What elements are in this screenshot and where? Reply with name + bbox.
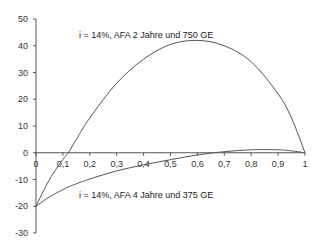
x-tick-label: 0,9 (272, 159, 285, 169)
series-group (36, 40, 305, 206)
y-tick-label: 50 (18, 14, 28, 24)
x-tick-label: 0,6 (191, 159, 204, 169)
y-tick-label: 40 (18, 41, 28, 51)
annotations: i = 14%, AFA 2 Jahre und 750 GEi = 14%, … (79, 30, 213, 201)
x-tick-label: 0,8 (245, 159, 258, 169)
y-axis: 50403020100-10-20-30 (15, 14, 36, 238)
y-tick-label: -10 (15, 175, 28, 185)
y-tick-label: 30 (18, 68, 28, 78)
line-chart: 50403020100-10-20-30 00,10,20,30,40,50,6… (0, 0, 323, 248)
series-afa-2-jahre-line (36, 40, 305, 206)
x-tick-label: 0 (33, 159, 38, 169)
x-tick-label: 1 (302, 159, 307, 169)
x-tick-label: 0,7 (218, 159, 231, 169)
x-axis: 00,10,20,30,40,50,60,70,80,91 (33, 153, 307, 169)
y-tick-label: -20 (15, 201, 28, 211)
y-tick-label: 0 (23, 148, 28, 158)
x-tick-label: 0,3 (110, 159, 123, 169)
y-tick-label: -30 (15, 228, 28, 238)
y-tick-label: 20 (18, 94, 28, 104)
x-tick-label: 0,2 (84, 159, 97, 169)
y-tick-label: 10 (18, 121, 28, 131)
annotation-afa-2-jahre: i = 14%, AFA 2 Jahre und 750 GE (79, 30, 213, 40)
annotation-afa-4-jahre: i = 14%, AFA 4 Jahre und 375 GE (79, 190, 213, 200)
